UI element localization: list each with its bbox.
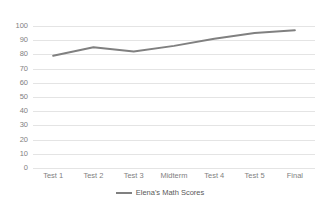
y-axis-tick-label: 20 — [20, 136, 28, 144]
chart-legend: Elena's Math Scores — [0, 189, 320, 197]
x-axis-tick-label: Test 3 — [124, 171, 144, 181]
legend-entry-label: Elena's Math Scores — [136, 189, 205, 197]
y-axis-tick-label: 0 — [24, 164, 28, 172]
y-axis-tick-label: 10 — [20, 150, 28, 158]
y-axis-tick-label: 30 — [20, 122, 28, 130]
series-polyline — [53, 30, 295, 56]
y-axis-tick-label: 90 — [20, 36, 28, 44]
y-axis-tick-label: 60 — [20, 79, 28, 87]
y-axis-tick-label: 40 — [20, 107, 28, 115]
gridline — [33, 168, 315, 169]
legend-line-swatch — [116, 192, 132, 194]
y-axis-tick-label: 70 — [20, 65, 28, 73]
x-axis-tick-label: Final — [287, 171, 303, 181]
x-axis-tick-label: Test 2 — [83, 171, 103, 181]
y-axis-tick-labels: 0102030405060708090100 — [0, 0, 33, 209]
line-chart: 0102030405060708090100 Test 1Test 2Test … — [0, 0, 320, 209]
x-axis-tick-labels: Test 1Test 2Test 3MidtermTest 4Test 5Fin… — [33, 171, 315, 185]
x-axis-tick-label: Test 1 — [43, 171, 63, 181]
x-axis-tick-label: Midterm — [160, 171, 187, 181]
x-axis-tick-label: Test 5 — [245, 171, 265, 181]
y-axis-tick-label: 100 — [15, 22, 28, 30]
x-axis-tick-label: Test 4 — [204, 171, 224, 181]
plot-area — [33, 26, 315, 168]
y-axis-tick-label: 50 — [20, 93, 28, 101]
y-axis-tick-label: 80 — [20, 51, 28, 59]
series-elenas-math-scores — [33, 26, 315, 168]
